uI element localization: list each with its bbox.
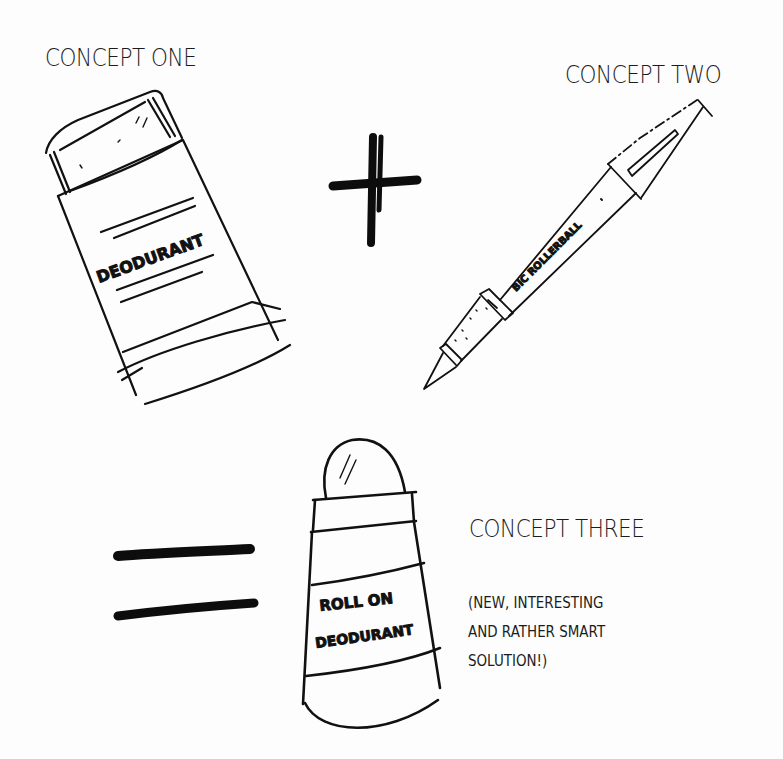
note-line: AND RATHER SMART xyxy=(468,617,605,646)
note-line: (NEW, INTERESTING xyxy=(468,588,605,617)
concept-one-title: CONCEPT ONE xyxy=(45,45,196,70)
roll-on-label-line2: DEODURANT xyxy=(314,621,415,651)
roll-on-deodorant-icon xyxy=(303,439,440,727)
concept-three-title: CONCEPT THREE xyxy=(469,516,644,541)
note-line: SOLUTION!) xyxy=(468,646,605,675)
sketch-drawing: DEODURANT xyxy=(0,0,783,759)
sketch-canvas: DEODURANT xyxy=(0,0,783,759)
concept-two-title: CONCEPT TWO xyxy=(565,62,721,87)
plus-icon xyxy=(333,137,417,243)
equals-icon xyxy=(118,549,254,616)
roll-on-label-line1: ROLL ON xyxy=(319,589,394,615)
pen-label: BIC ROLLERBALL xyxy=(510,219,585,294)
concept-three-note: (NEW, INTERESTING AND RATHER SMART SOLUT… xyxy=(468,588,605,675)
rollerball-pen-icon xyxy=(424,100,712,389)
